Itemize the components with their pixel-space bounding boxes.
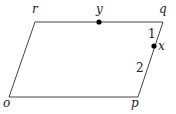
segment-label-qx: 1	[148, 27, 156, 41]
point-y	[96, 19, 101, 24]
segment-label-xp: 2	[136, 61, 144, 75]
parallelogram-diagram: r y q 1 x 2 o p	[0, 0, 176, 114]
point-label-x: x	[158, 39, 165, 53]
point-x	[151, 43, 156, 48]
vertex-label-q: q	[159, 2, 167, 16]
vertex-label-o: o	[3, 96, 10, 110]
point-label-y: y	[95, 2, 103, 16]
vertex-label-p: p	[131, 96, 139, 110]
parallelogram-oprq	[9, 22, 163, 97]
vertex-label-r: r	[32, 2, 39, 16]
